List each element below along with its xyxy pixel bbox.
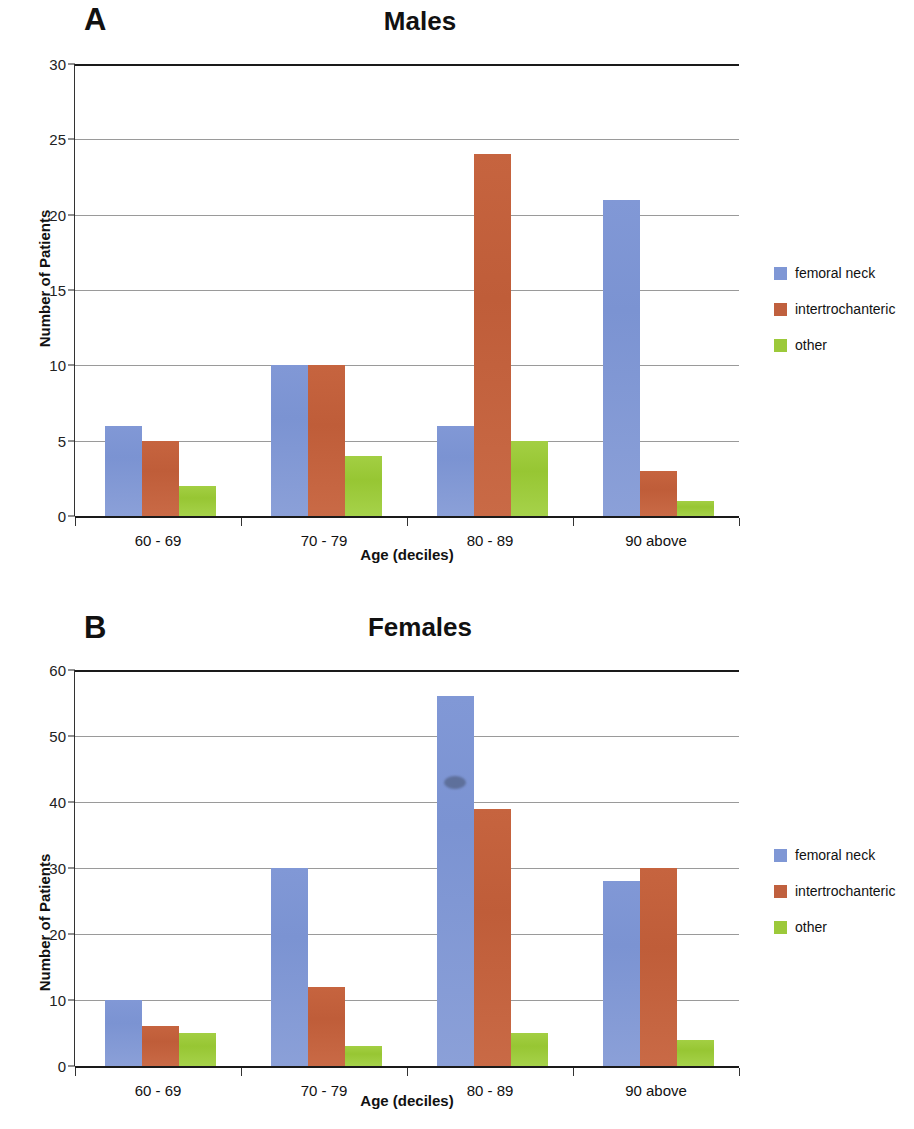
- y-tick-mark: [68, 1066, 75, 1067]
- bar: [179, 1033, 216, 1066]
- bar: [308, 987, 345, 1066]
- legend-swatch-icon-intertrochanteric: [774, 303, 787, 316]
- y-tick-mark: [68, 736, 75, 737]
- y-tick-label: 60: [49, 662, 66, 679]
- legend-label-femoral-neck: femoral neck: [795, 265, 875, 281]
- bar: [437, 696, 474, 1066]
- bar: [142, 1026, 179, 1066]
- legend-item-femoral-neck: femoral neck: [774, 266, 895, 280]
- bar: [640, 868, 677, 1066]
- legend-swatch-icon-femoral-neck: [774, 849, 787, 862]
- bar: [677, 1040, 714, 1066]
- bar-group: [603, 670, 714, 1066]
- legend-label-intertrochanteric: intertrochanteric: [795, 301, 895, 317]
- bar: [271, 868, 308, 1066]
- bar: [474, 154, 511, 516]
- y-tick-mark: [68, 802, 75, 803]
- y-tick-mark: [68, 365, 75, 366]
- x-tick-mark: [739, 1068, 740, 1076]
- panel-letter-a: A: [84, 2, 106, 38]
- chart-title-females: Females: [240, 612, 600, 643]
- axis-area-a: 051015202530: [75, 64, 739, 516]
- y-tick-label: 0: [58, 1058, 66, 1075]
- axis-area-b: 0102030405060: [75, 670, 739, 1066]
- y-tick-mark: [68, 1000, 75, 1001]
- x-tick-mark: [75, 518, 76, 526]
- y-tick-mark: [68, 64, 75, 65]
- y-tick-label: 10: [49, 357, 66, 374]
- x-tick-mark: [241, 1068, 242, 1076]
- y-tick-mark: [68, 214, 75, 215]
- bar: [677, 501, 714, 516]
- legend-item-other: other: [774, 920, 895, 934]
- chart-panel-females: B Females Number of Patients 01020304050…: [0, 596, 914, 1129]
- legend-item-intertrochanteric: intertrochanteric: [774, 302, 895, 316]
- y-tick-label: 10: [49, 992, 66, 1009]
- y-tick-mark: [68, 670, 75, 671]
- x-axis-label-b: Age (deciles): [75, 1092, 739, 1109]
- y-tick-label: 5: [58, 432, 66, 449]
- bar-group: [603, 64, 714, 516]
- y-tick-label: 20: [49, 926, 66, 943]
- y-tick-label: 40: [49, 794, 66, 811]
- legend-label-other: other: [795, 919, 827, 935]
- bar-group: [437, 670, 548, 1066]
- x-tick-mark: [407, 518, 408, 526]
- bar-group: [271, 670, 382, 1066]
- legend-swatch-icon-intertrochanteric: [774, 885, 787, 898]
- x-tick-mark: [573, 1068, 574, 1076]
- y-tick-mark: [68, 139, 75, 140]
- legend-swatch-icon-other: [774, 921, 787, 934]
- bar: [271, 365, 308, 516]
- bar: [105, 426, 142, 516]
- bar-group: [437, 64, 548, 516]
- bar: [437, 426, 474, 516]
- y-tick-mark: [68, 440, 75, 441]
- x-tick-mark: [241, 518, 242, 526]
- legend-item-intertrochanteric: intertrochanteric: [774, 884, 895, 898]
- chart-title-males: Males: [240, 6, 600, 37]
- x-tick-mark: [407, 1068, 408, 1076]
- bar: [603, 200, 640, 516]
- legend-label-intertrochanteric: intertrochanteric: [795, 883, 895, 899]
- y-tick-label: 0: [58, 508, 66, 525]
- legend-b: femoral neck intertrochanteric other: [774, 848, 895, 956]
- bar-group: [105, 670, 216, 1066]
- bar: [511, 441, 548, 516]
- bar: [179, 486, 216, 516]
- y-tick-mark: [68, 934, 75, 935]
- bar-group: [105, 64, 216, 516]
- legend-a: femoral neck intertrochanteric other: [774, 266, 895, 374]
- y-tick-label: 50: [49, 728, 66, 745]
- y-tick-mark: [68, 290, 75, 291]
- bar: [105, 1000, 142, 1066]
- bar: [640, 471, 677, 516]
- y-tick-label: 15: [49, 282, 66, 299]
- y-tick-label: 30: [49, 860, 66, 877]
- bar: [511, 1033, 548, 1066]
- legend-swatch-icon-femoral-neck: [774, 267, 787, 280]
- bar: [603, 881, 640, 1066]
- y-tick-label: 30: [49, 56, 66, 73]
- y-tick-mark: [68, 868, 75, 869]
- bars-layer-b: [75, 670, 739, 1066]
- bar-group: [271, 64, 382, 516]
- x-tick-mark: [739, 518, 740, 526]
- x-tick-mark: [573, 518, 574, 526]
- panel-letter-b: B: [84, 610, 106, 646]
- bar: [474, 809, 511, 1066]
- bar: [345, 1046, 382, 1066]
- bars-layer-a: [75, 64, 739, 516]
- bar: [308, 365, 345, 516]
- legend-item-femoral-neck: femoral neck: [774, 848, 895, 862]
- legend-swatch-icon-other: [774, 339, 787, 352]
- legend-label-other: other: [795, 337, 827, 353]
- chart-panel-males: A Males Number of Patients 051015202530 …: [0, 0, 914, 580]
- x-axis-label-a: Age (deciles): [75, 546, 739, 563]
- y-tick-mark: [68, 516, 75, 517]
- y-tick-label: 25: [49, 131, 66, 148]
- y-tick-label: 20: [49, 206, 66, 223]
- figure-root: A Males Number of Patients 051015202530 …: [0, 0, 914, 1129]
- bar: [142, 441, 179, 516]
- legend-label-femoral-neck: femoral neck: [795, 847, 875, 863]
